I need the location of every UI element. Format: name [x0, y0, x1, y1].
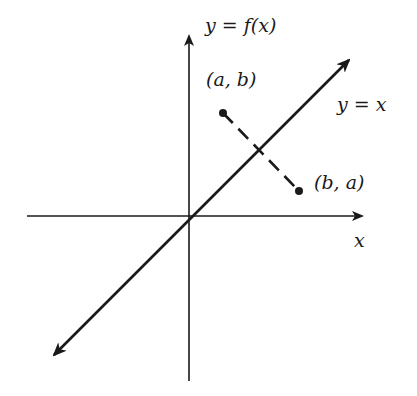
point-ab-label: (a, b) [206, 70, 256, 89]
x-axis-label: x [354, 231, 365, 250]
diagram-canvas [0, 0, 417, 396]
identity-line-label: y = x [337, 95, 386, 114]
point-ab [219, 109, 227, 117]
point-ba-label: (b, a) [314, 173, 364, 192]
identity-line [54, 60, 349, 355]
y-axis-label: y = f(x) [205, 16, 276, 35]
point-ba [295, 187, 303, 195]
reflection-segment [223, 113, 299, 191]
